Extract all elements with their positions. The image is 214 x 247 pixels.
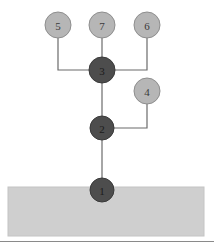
node-4[interactable]: 4: [134, 78, 160, 104]
node-6-label: 6: [144, 20, 150, 32]
tree-diagram: 5 7 6 4 3 2 1: [0, 0, 214, 247]
node-5-label: 5: [55, 20, 61, 32]
node-2[interactable]: 2: [90, 116, 114, 140]
node-4-label: 4: [144, 86, 150, 98]
node-7[interactable]: 7: [89, 12, 115, 38]
edge-group: [58, 25, 147, 190]
node-2-label: 2: [99, 123, 105, 135]
node-1[interactable]: 1: [90, 178, 114, 202]
node-5[interactable]: 5: [45, 12, 71, 38]
node-3-label: 3: [99, 65, 105, 77]
diagram-canvas: 5 7 6 4 3 2 1: [0, 0, 214, 247]
node-1-label: 1: [99, 185, 105, 197]
node-6[interactable]: 6: [134, 12, 160, 38]
node-7-label: 7: [99, 20, 105, 32]
node-3[interactable]: 3: [89, 57, 115, 83]
